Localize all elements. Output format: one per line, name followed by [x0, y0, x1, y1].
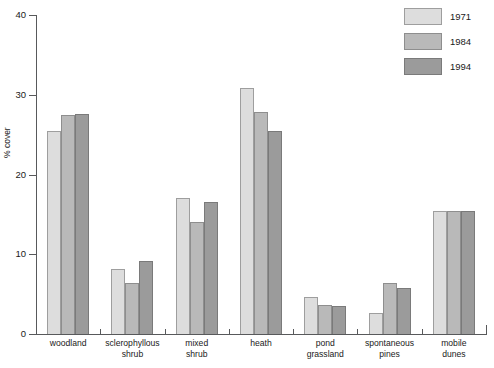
- bar: [461, 211, 475, 334]
- bar: [369, 313, 383, 334]
- x-category-label: spontaneouspines: [357, 338, 421, 360]
- x-category-label-line: shrub: [100, 349, 164, 360]
- y-tick-20: 20: [29, 175, 36, 176]
- bar: [176, 198, 190, 334]
- x-category-label-line: mobile: [422, 338, 486, 349]
- bar: [254, 112, 268, 334]
- bar: [47, 131, 61, 334]
- x-category-label-line: shrub: [165, 349, 229, 360]
- bar: [139, 261, 153, 334]
- bar: [75, 114, 89, 334]
- bar: [318, 305, 332, 334]
- y-tick-label-0: 0: [21, 327, 26, 340]
- bar: [304, 297, 318, 334]
- x-category-label-line: sclerophyllous: [100, 338, 164, 349]
- x-axis-end-tick: [486, 325, 487, 335]
- y-tick-label-30: 30: [15, 88, 26, 101]
- x-category-label: pondgrassland: [293, 338, 357, 360]
- x-tick-separator: [357, 329, 358, 335]
- bar: [204, 202, 218, 334]
- x-tick-separator: [422, 329, 423, 335]
- bar: [61, 115, 75, 334]
- x-category-label-line: spontaneous: [357, 338, 421, 349]
- x-category-label-line: mixed: [165, 338, 229, 349]
- x-axis-start-tick: [36, 325, 37, 335]
- legend-swatch-1984: [404, 33, 442, 50]
- bar: [433, 211, 447, 334]
- bar: [190, 222, 204, 334]
- x-category-label: woodland: [36, 338, 100, 349]
- x-category-label: mixedshrub: [165, 338, 229, 360]
- x-category-label-line: pines: [357, 349, 421, 360]
- x-axis-line: [36, 334, 486, 335]
- y-tick-40: 40: [29, 15, 36, 16]
- bar: [240, 88, 254, 334]
- x-tick-separator: [293, 329, 294, 335]
- x-category-label: sclerophyllousshrub: [100, 338, 164, 360]
- x-category-label-line: woodland: [36, 338, 100, 349]
- x-category-label: mobiledunes: [422, 338, 486, 360]
- y-tick-0: 0: [29, 334, 36, 335]
- x-category-label-line: grassland: [293, 349, 357, 360]
- x-tick-separator: [165, 329, 166, 335]
- x-category-label-line: heath: [229, 338, 293, 349]
- bar-chart: % cover 010203040 woodlandsclerophyllous…: [0, 0, 494, 368]
- bar: [125, 283, 139, 334]
- y-tick-label-10: 10: [15, 247, 26, 260]
- legend-swatch-1994: [404, 58, 442, 75]
- legend-label-1971: 1971: [450, 11, 471, 23]
- y-tick-30: 30: [29, 95, 36, 96]
- legend-label-1984: 1984: [450, 36, 471, 48]
- legend-swatch-1971: [404, 8, 442, 25]
- y-tick-10: 10: [29, 254, 36, 255]
- bar: [383, 283, 397, 334]
- bar: [397, 288, 411, 334]
- bar: [447, 211, 461, 334]
- y-axis-title: % cover: [2, 127, 12, 158]
- x-category-label-line: pond: [293, 338, 357, 349]
- legend-label-1994: 1994: [450, 61, 471, 73]
- y-axis-line: [36, 15, 37, 334]
- y-tick-label-20: 20: [15, 168, 26, 181]
- x-category-label: heath: [229, 338, 293, 349]
- x-tick-separator: [229, 329, 230, 335]
- bar: [268, 131, 282, 334]
- x-tick-separator: [100, 329, 101, 335]
- bar: [111, 269, 125, 334]
- bar: [332, 306, 346, 334]
- x-category-label-line: dunes: [422, 349, 486, 360]
- y-tick-label-40: 40: [15, 8, 26, 21]
